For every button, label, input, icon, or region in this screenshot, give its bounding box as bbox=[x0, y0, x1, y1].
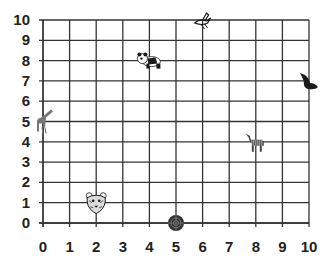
x-tick-label: 4 bbox=[145, 238, 154, 255]
tiger-icon bbox=[86, 193, 106, 214]
x-tick-label: 2 bbox=[92, 238, 100, 255]
x-tick-label: 9 bbox=[278, 238, 286, 255]
y-tick-label: 4 bbox=[22, 133, 31, 150]
y-tick-label: 5 bbox=[22, 113, 30, 130]
y-tick-label: 3 bbox=[22, 153, 30, 170]
x-tick-label: 7 bbox=[225, 238, 233, 255]
y-tick-label: 10 bbox=[13, 11, 30, 28]
y-tick-label: 7 bbox=[22, 72, 30, 89]
x-tick-label: 6 bbox=[198, 238, 206, 255]
x-tick-label: 1 bbox=[65, 238, 73, 255]
y-tick-label: 6 bbox=[22, 92, 30, 109]
x-tick-label: 3 bbox=[119, 238, 127, 255]
x-axis-labels: 012345678910 bbox=[39, 238, 318, 255]
y-tick-label: 0 bbox=[22, 214, 30, 231]
y-tick-label: 8 bbox=[22, 52, 30, 69]
coordinate-grid-chart: 012345678910 012345678910 bbox=[0, 0, 332, 274]
y-tick-label: 9 bbox=[22, 31, 30, 48]
x-tick-label: 0 bbox=[39, 238, 47, 255]
y-tick-label: 1 bbox=[22, 194, 30, 211]
x-tick-label: 8 bbox=[252, 238, 260, 255]
y-tick-label: 2 bbox=[22, 173, 30, 190]
grid-lines bbox=[39, 20, 309, 227]
x-tick-label: 5 bbox=[172, 238, 180, 255]
x-tick-label: 10 bbox=[301, 238, 318, 255]
y-axis-labels: 012345678910 bbox=[13, 11, 30, 231]
armadillo-icon bbox=[168, 215, 184, 231]
zebra-icon bbox=[246, 134, 264, 152]
